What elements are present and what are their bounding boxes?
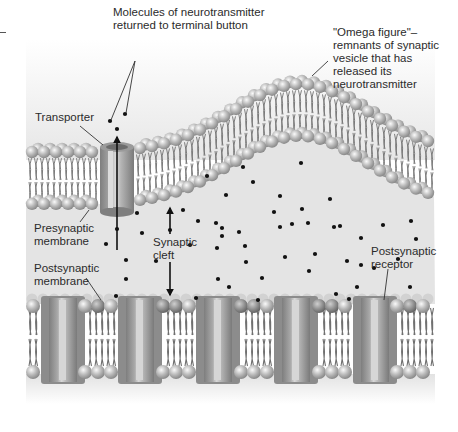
lipid-tail	[323, 308, 326, 335]
lipid-head	[338, 143, 350, 155]
lipid-head	[422, 187, 434, 199]
lipid-head	[38, 146, 50, 158]
neurotransmitter-molecule	[306, 221, 310, 225]
lipid-head	[314, 81, 326, 93]
neurotransmitter-molecule	[205, 174, 209, 178]
neurotransmitter-molecule	[104, 242, 108, 246]
lipid-tail	[419, 339, 422, 366]
lipid-head	[362, 105, 374, 117]
neurotransmitter-molecule	[124, 277, 128, 281]
neurotransmitter-molecule	[359, 236, 363, 240]
corner-mark	[0, 32, 6, 33]
lipid-tail	[401, 308, 404, 335]
lipid-head	[302, 130, 314, 142]
lipid-tail	[89, 158, 92, 180]
neurotransmitter-molecule	[359, 263, 363, 267]
lipid-head	[254, 141, 266, 153]
lipid-head	[74, 146, 86, 158]
neurotransmitter-molecule	[220, 226, 224, 230]
neurotransmitter-molecule	[328, 197, 332, 201]
neurotransmitter-molecule	[272, 210, 276, 214]
lipid-head	[234, 365, 248, 379]
lipid-tail	[113, 339, 116, 366]
neurotransmitter-molecule	[241, 165, 245, 169]
lipid-head	[182, 181, 194, 193]
neurotransmitter-molecule	[196, 219, 200, 223]
lipid-tail	[413, 339, 416, 366]
lipid-head	[374, 113, 386, 125]
lipid-head	[230, 155, 242, 167]
lipid-tail	[431, 339, 434, 366]
lipid-tail	[95, 158, 98, 180]
receptor-highlight	[292, 300, 299, 380]
receptor-highlight	[214, 300, 221, 380]
neurotransmitter-molecule	[140, 231, 144, 235]
lipid-tail	[47, 158, 50, 180]
receptor-highlight	[136, 300, 143, 380]
lipid-tail	[245, 308, 248, 335]
lipid-tail	[71, 158, 74, 180]
lipid-tail	[83, 158, 86, 180]
lipid-head	[26, 299, 40, 313]
lipid-head	[194, 175, 206, 187]
lipid-head	[312, 299, 326, 313]
neurotransmitter-molecule	[224, 193, 228, 197]
lipid-head	[242, 96, 254, 108]
neurotransmitter-molecule	[214, 221, 218, 225]
lipid-tail	[89, 308, 92, 335]
receptor-highlight	[59, 300, 66, 380]
neurotransmitter-molecule	[243, 244, 247, 248]
lipid-tail	[59, 158, 62, 180]
lipid-head	[218, 162, 230, 174]
neurotransmitter-molecule	[355, 285, 359, 289]
lipid-tail	[335, 339, 338, 366]
lipid-head	[325, 365, 339, 379]
neurotransmitter-molecule	[251, 180, 255, 184]
lipid-head	[50, 146, 62, 158]
lipid-tail	[425, 339, 428, 366]
lipid-head	[254, 89, 266, 101]
lipid-tail	[95, 339, 98, 366]
lipid-tail	[323, 339, 326, 366]
lipid-head	[78, 365, 92, 379]
lipid-head	[78, 299, 92, 313]
lipid-head	[62, 198, 74, 210]
lipid-head	[260, 365, 274, 379]
label-postsynaptic-membrane: Postsynaptic membrane	[34, 262, 99, 288]
lipid-tail	[251, 339, 254, 366]
lipid-head	[390, 365, 404, 379]
lipid-head	[290, 130, 302, 142]
lipid-tail	[53, 158, 56, 180]
neurotransmitter-molecule	[194, 296, 198, 300]
label-postsynaptic-receptor: Postsynaptic receptor	[371, 245, 436, 271]
lipid-head	[182, 129, 194, 141]
label-omega-figure: "Omega figure"– remnants of synaptic ves…	[333, 26, 439, 91]
lipid-head	[169, 365, 183, 379]
neurotransmitter-molecule	[114, 294, 118, 298]
transporter-highlight	[108, 151, 113, 208]
lipid-tail	[401, 339, 404, 366]
lipid-head	[230, 103, 242, 115]
label-transporter: Transporter	[35, 111, 94, 124]
postsynaptic-membrane	[26, 294, 434, 385]
lipid-head	[146, 192, 158, 204]
neurotransmitter-molecule	[260, 276, 264, 280]
lipid-tail	[167, 308, 170, 335]
lipid-head	[156, 299, 170, 313]
lipid-head	[338, 365, 352, 379]
lipid-head	[410, 131, 422, 143]
lipid-head	[104, 299, 118, 313]
lipid-head	[134, 142, 146, 154]
lipid-tail	[173, 339, 176, 366]
lipid-tail	[257, 339, 260, 366]
postsynaptic-receptor	[118, 296, 162, 384]
lipid-tail	[329, 339, 332, 366]
postsynaptic-receptor	[274, 296, 318, 384]
lipid-head	[350, 98, 362, 110]
lipid-head	[338, 91, 350, 103]
lipid-head	[182, 365, 196, 379]
lipid-head	[86, 198, 98, 210]
lipid-head	[278, 132, 290, 144]
lipid-head	[170, 185, 182, 197]
lipid-head	[26, 146, 38, 158]
